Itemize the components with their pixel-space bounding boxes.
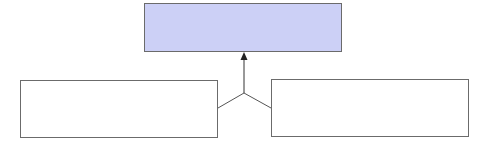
left-box bbox=[20, 80, 218, 138]
top-box bbox=[144, 3, 342, 52]
arrowhead-icon bbox=[241, 52, 248, 60]
edge-left-to-junction bbox=[218, 93, 244, 108]
right-box bbox=[271, 79, 469, 137]
edge-right-to-junction bbox=[244, 93, 271, 108]
